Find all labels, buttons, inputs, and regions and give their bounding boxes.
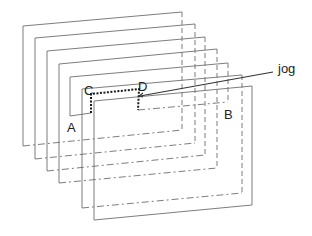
label-d: D <box>138 79 147 94</box>
label-c: C <box>84 83 93 98</box>
layer-3 <box>47 37 205 171</box>
label-jog: jog <box>277 61 295 76</box>
layer-4 <box>59 49 217 183</box>
jog-leader-line <box>140 72 273 96</box>
label-b: B <box>224 107 233 122</box>
label-a: A <box>67 120 76 135</box>
layer-stack-diagram: A B C D jog <box>0 0 312 236</box>
